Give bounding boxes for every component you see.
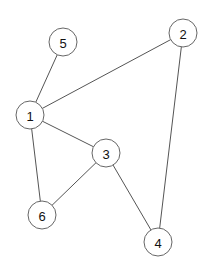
- node-label: 6: [38, 209, 45, 224]
- node-1: 1: [16, 101, 44, 129]
- node-label: 3: [102, 147, 109, 162]
- node-label: 1: [26, 109, 33, 124]
- nodes: 123456: [16, 19, 197, 256]
- node-label: 4: [154, 236, 161, 251]
- node-label: 5: [59, 36, 66, 51]
- edge-3-4: [106, 153, 158, 242]
- edge-2-4: [158, 33, 183, 242]
- edge-1-6: [30, 115, 42, 215]
- graph-diagram: 123456: [0, 0, 209, 275]
- node-3: 3: [92, 139, 120, 167]
- node-label: 2: [179, 27, 186, 42]
- node-6: 6: [28, 201, 56, 229]
- node-2: 2: [169, 19, 197, 47]
- node-4: 4: [144, 228, 172, 256]
- node-5: 5: [49, 28, 77, 56]
